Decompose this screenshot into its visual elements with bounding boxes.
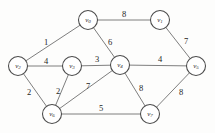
- nodes-layer: v0v1v2v3v4v5v6v7: [9, 11, 206, 124]
- edge-weight-label: 8: [179, 87, 183, 97]
- edges-layer: [23, 20, 190, 114]
- edge-weight-label: 7: [86, 81, 90, 91]
- edge-weight-label: 4: [158, 54, 163, 64]
- edge-weight-label: 8: [122, 9, 126, 19]
- graph-edge: [130, 65, 187, 66]
- edge-weight-label: 8: [139, 83, 143, 93]
- graph-node-v5: v5: [187, 57, 206, 76]
- edge-weight-label: 2: [56, 86, 60, 96]
- edge-weight-label: 3: [95, 54, 99, 64]
- edge-weight-label: 5: [99, 103, 103, 113]
- graph-edge: [157, 73, 190, 107]
- weighted-graph-figure: v0v1v2v3v4v5v6v7 8167423247885: [0, 0, 215, 133]
- edge-weight-label: 4: [44, 56, 49, 66]
- graph-node-v6: v6: [43, 105, 62, 124]
- graph-node-v4: v4: [111, 56, 130, 75]
- graph-node-v3: v3: [63, 57, 82, 76]
- graph-node-v0: v0: [79, 11, 98, 30]
- node-label-subscript: 1: [160, 19, 163, 24]
- graph-node-v1: v1: [151, 11, 170, 30]
- graph-edge: [82, 65, 111, 66]
- graph-node-v2: v2: [9, 57, 28, 76]
- edge-weight-label: 7: [184, 36, 188, 46]
- graph-node-v7: v7: [141, 105, 160, 124]
- edge-weight-label: 1: [44, 37, 48, 47]
- edge-weight-label: 2: [27, 87, 31, 97]
- graph-edge: [26, 25, 80, 61]
- graph-canvas: v0v1v2v3v4v5v6v7 8167423247885: [0, 0, 215, 133]
- edge-weight-label: 6: [108, 37, 112, 47]
